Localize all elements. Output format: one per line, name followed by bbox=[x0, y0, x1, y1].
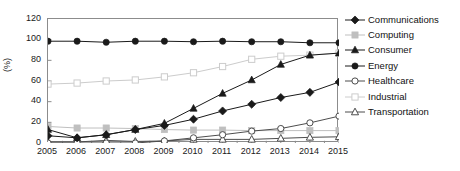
x-axis: 2005200620072008200920102011201220132014… bbox=[47, 146, 338, 162]
legend-item-consumer[interactable]: Consumer bbox=[344, 43, 456, 58]
x-axis-tick-label: 2006 bbox=[61, 146, 91, 156]
legend-item-label: Healthcare bbox=[366, 76, 414, 86]
series-energy bbox=[48, 38, 339, 46]
x-axis-tick-label: 2009 bbox=[148, 146, 178, 156]
legend-item-label: Communications bbox=[366, 15, 439, 25]
y-axis-tick-label: 100 bbox=[26, 34, 41, 43]
x-axis-tick-label: 2012 bbox=[236, 146, 266, 156]
legend-item-industrial[interactable]: Industrial bbox=[344, 89, 456, 104]
legend-item-transportation[interactable]: Transportation bbox=[344, 104, 456, 119]
x-axis-tick-label: 2005 bbox=[32, 146, 62, 156]
x-axis-tick-label: 2015 bbox=[323, 146, 353, 156]
open-circle-icon bbox=[344, 74, 366, 88]
x-axis-tick-label: 2008 bbox=[119, 146, 149, 156]
series-canvas bbox=[48, 19, 339, 143]
filled-triangle-icon bbox=[344, 43, 366, 57]
legend-item-label: Transportation bbox=[366, 107, 429, 117]
legend-item-computing[interactable]: Computing bbox=[344, 27, 456, 42]
filled-diamond-icon bbox=[344, 13, 366, 27]
filled-square-icon bbox=[344, 28, 366, 42]
open-square-icon bbox=[344, 90, 366, 104]
legend-item-healthcare[interactable]: Healthcare bbox=[344, 74, 456, 89]
x-axis-tick-label: 2014 bbox=[294, 146, 324, 156]
y-axis-tick-label: 60 bbox=[31, 76, 41, 85]
y-axis-tick-label: 20 bbox=[31, 117, 41, 126]
x-axis-tick-label: 2011 bbox=[207, 146, 237, 156]
legend-item-label: Industrial bbox=[366, 92, 407, 102]
x-axis-tick-label: 2013 bbox=[265, 146, 295, 156]
plot-area bbox=[47, 18, 338, 142]
y-axis-tick-label: 80 bbox=[31, 55, 41, 64]
series-computing bbox=[48, 123, 339, 133]
open-triangle-icon bbox=[344, 105, 366, 119]
chart-legend: CommunicationsComputingConsumerEnergyHea… bbox=[344, 12, 456, 120]
y-axis-title: (%) bbox=[2, 58, 12, 72]
series-industrial bbox=[48, 50, 339, 87]
legend-item-label: Computing bbox=[366, 30, 414, 40]
x-axis-tick-label: 2010 bbox=[178, 146, 208, 156]
y-axis-tick-label: 40 bbox=[31, 96, 41, 105]
x-axis-tick-label: 2007 bbox=[90, 146, 120, 156]
legend-item-label: Energy bbox=[366, 61, 398, 71]
filled-circle-icon bbox=[344, 59, 366, 73]
y-axis-tick-label: 120 bbox=[26, 14, 41, 23]
legend-item-label: Consumer bbox=[366, 45, 412, 55]
legend-item-communications[interactable]: Communications bbox=[344, 12, 456, 27]
line-chart-figure: 120100806040200 (%) 20052006200720082009… bbox=[0, 0, 460, 171]
legend-item-energy[interactable]: Energy bbox=[344, 58, 456, 73]
